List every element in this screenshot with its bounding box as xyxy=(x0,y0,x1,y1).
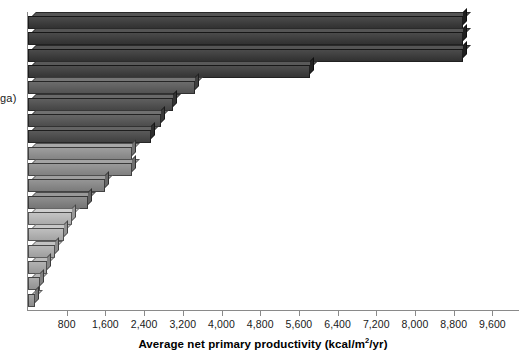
bar-side-face xyxy=(40,269,44,286)
x-axis-tick xyxy=(144,311,145,316)
x-axis-tick-label: 9,600 xyxy=(479,318,506,330)
plot-area: 8001,6002,4003,2004,0004,8005,6006,4007,… xyxy=(0,0,526,311)
x-axis-tick-label: 3,200 xyxy=(169,318,196,330)
bar xyxy=(28,179,105,192)
x-axis-tick-label: 5,600 xyxy=(286,318,313,330)
x-axis-title: Average net primary productivity (kcal/m… xyxy=(0,338,526,350)
bar-side-face xyxy=(105,171,109,188)
bar-side-face xyxy=(310,57,314,74)
bar-side-face xyxy=(132,155,136,172)
bar-side-face xyxy=(72,204,76,221)
bar-side-face xyxy=(88,188,92,205)
x-axis-tick-label: 8,000 xyxy=(402,318,429,330)
bar-side-face xyxy=(55,237,59,254)
bar xyxy=(28,147,132,160)
x-axis-title-suffix: /yr) xyxy=(369,338,387,350)
bar-side-face xyxy=(64,220,68,237)
x-axis-tick-label: 800 xyxy=(58,318,76,330)
bar-side-face xyxy=(151,122,155,139)
bar xyxy=(28,32,463,45)
x-axis-tick-label: 7,200 xyxy=(363,318,390,330)
bar-side-face xyxy=(195,73,199,90)
bar-side-face xyxy=(173,90,177,107)
x-axis-tick xyxy=(454,311,455,316)
x-axis-tick xyxy=(67,311,68,316)
bar-front-face xyxy=(28,196,88,209)
x-axis-tick xyxy=(299,311,300,316)
bar-front-face xyxy=(28,49,463,62)
x-axis-tick xyxy=(222,311,223,316)
bar-side-face xyxy=(463,41,467,58)
x-axis-tick xyxy=(338,311,339,316)
x-axis-tick-label: 4,800 xyxy=(247,318,274,330)
x-axis-tick-label: 4,000 xyxy=(208,318,235,330)
x-axis-title-prefix: Average net primary productivity (kcal/m xyxy=(138,338,365,350)
bar-front-face xyxy=(28,81,195,94)
bar-side-face xyxy=(463,24,467,41)
bar xyxy=(28,196,88,209)
x-axis-tick-label: 8,800 xyxy=(440,318,467,330)
bar-side-face xyxy=(132,139,136,156)
x-axis-line xyxy=(27,310,519,311)
bar xyxy=(28,81,195,94)
bar xyxy=(28,294,35,307)
bar-side-face xyxy=(161,106,165,123)
x-axis-tick xyxy=(105,311,106,316)
x-axis-tick-label: 6,400 xyxy=(324,318,351,330)
bar-front-face xyxy=(28,32,463,45)
chart-container: ga) 8001,6002,4003,2004,0004,8005,6006,4… xyxy=(0,0,526,361)
bar-front-face xyxy=(28,294,35,307)
x-axis-tick xyxy=(260,311,261,316)
bar-front-face xyxy=(28,98,173,111)
bar-side-face xyxy=(35,286,39,303)
bar-front-face xyxy=(28,179,105,192)
x-axis-tick xyxy=(183,311,184,316)
x-axis-tick xyxy=(415,311,416,316)
x-axis-tick xyxy=(492,311,493,316)
bar xyxy=(28,98,173,111)
bar xyxy=(28,49,463,62)
x-axis-tick-label: 2,400 xyxy=(131,318,158,330)
x-axis-tick-label: 1,600 xyxy=(92,318,119,330)
bar-front-face xyxy=(28,147,132,160)
bar-side-face xyxy=(47,253,51,270)
x-axis-tick xyxy=(376,311,377,316)
